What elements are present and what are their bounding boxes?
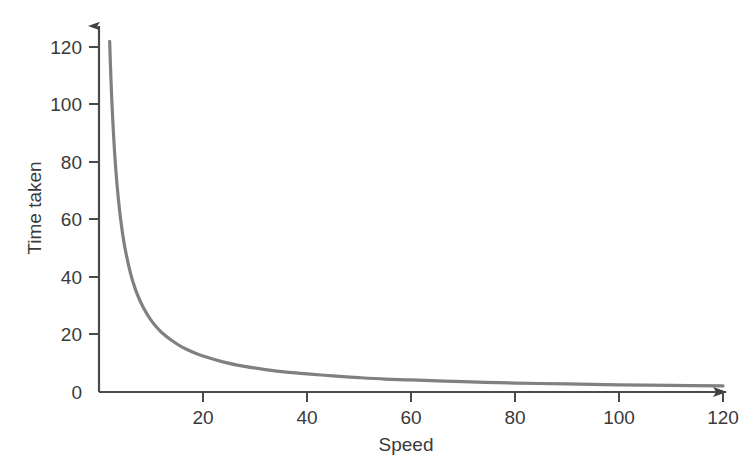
y-tick-label-40: 40 — [61, 267, 82, 288]
chart-canvas: 120 100 80 60 40 20 0 20 40 60 80 100 12… — [0, 0, 748, 461]
y-axis-title: Time taken — [24, 161, 45, 254]
y-tick-label-60: 60 — [61, 209, 82, 230]
y-tick-label-80: 80 — [61, 152, 82, 173]
x-tick-label-120: 120 — [707, 407, 739, 428]
y-tick-label-120: 120 — [50, 37, 82, 58]
x-tick-label-100: 100 — [603, 407, 635, 428]
x-tick-label-60: 60 — [400, 407, 421, 428]
x-tick-label-80: 80 — [504, 407, 525, 428]
x-tick-label-20: 20 — [192, 407, 213, 428]
y-tick-label-100: 100 — [50, 94, 82, 115]
chart-figure: 120 100 80 60 40 20 0 20 40 60 80 100 12… — [0, 0, 748, 461]
y-tick-label-20: 20 — [61, 324, 82, 345]
x-axis-title: Speed — [379, 434, 434, 455]
y-tick-label-0: 0 — [71, 382, 82, 403]
x-tick-label-40: 40 — [296, 407, 317, 428]
